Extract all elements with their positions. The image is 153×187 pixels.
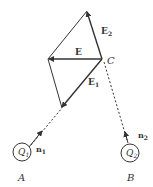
vector-e-label: E <box>75 47 82 57</box>
unit-vector-n2-label: n2 <box>138 130 148 141</box>
point-b-label: B <box>126 172 134 183</box>
parallelogram-side-bottom <box>48 59 62 108</box>
point-c-label: C <box>107 55 115 66</box>
charge-q2-label: Q2 <box>126 148 137 159</box>
field-diagram: Q1 Q2 A B C E E1 E2 n1 n2 <box>0 0 153 187</box>
unit-vector-n1-label: n1 <box>36 144 46 155</box>
dashed-line-b <box>104 62 127 140</box>
vector-e2-label: E2 <box>101 26 112 37</box>
unit-vector-n2-arrow <box>125 132 128 143</box>
point-a-label: A <box>17 172 25 183</box>
charge-q1-label: Q1 <box>18 147 29 158</box>
vector-e1-label: E1 <box>88 77 99 88</box>
vector-e2-arrow <box>87 12 102 59</box>
